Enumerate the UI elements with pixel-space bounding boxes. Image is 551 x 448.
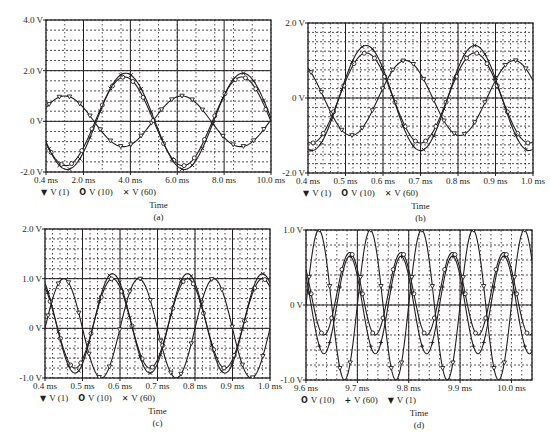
x-tick-label: 10.0 ms [497,383,526,393]
legend-d: OV (10)+V (60)▼V (1) [301,395,416,405]
legend-label: V (1) [397,395,416,405]
x-tick-label: 9.9 ms [448,383,473,393]
y-tick-label: 0 V [290,300,304,310]
x-tick-label: 9.8 ms [397,383,422,393]
y-tick-label: 1.0 V [283,225,303,235]
legend-label: V (60) [354,395,378,405]
legend-item: OV (10) [301,395,334,405]
legend-label: V (10) [311,395,335,405]
x-axis-label: Time [379,408,459,418]
plus-marker-icon: + [344,396,351,405]
x-tick-label: 9.7 ms [345,383,370,393]
legend-item: +V (60) [344,395,377,405]
triangle-marker-icon: ▼ [388,396,394,405]
circle-marker-icon: O [301,396,308,405]
x-tick-label: 9.6 ms [294,383,319,393]
chart-d: -1.0 V0 V1.0 V9.6 ms9.7 ms9.8 ms9.9 ms10… [0,0,551,448]
legend-item: ▼V (1) [388,395,416,405]
figure-caption: (d) [379,420,459,430]
